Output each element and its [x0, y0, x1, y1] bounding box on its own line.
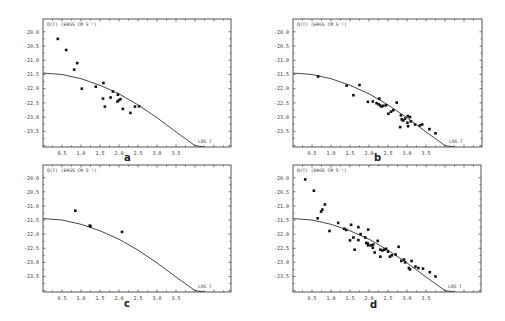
y-tick-label: -22.5	[24, 245, 39, 251]
x-tick-label: 2.5	[383, 295, 392, 301]
data-point	[102, 82, 105, 85]
data-point	[328, 230, 331, 233]
data-point	[372, 246, 375, 249]
data-point	[385, 248, 388, 251]
panel-b-label: b	[374, 152, 381, 163]
y-tick-label: -21.0	[274, 57, 289, 63]
data-point	[89, 225, 92, 228]
data-point	[379, 255, 382, 258]
data-point	[353, 248, 356, 251]
plot-frame	[43, 165, 231, 292]
y-axis-title: Q(T) (ERGS CM S⁻¹)	[297, 22, 347, 27]
x-tick-label: 1.0	[326, 295, 335, 301]
y-tick-label: -23.0	[24, 114, 39, 120]
data-point	[65, 49, 68, 52]
data-point	[434, 132, 437, 135]
x-axis-title: LOG T	[198, 139, 212, 144]
model-curve	[293, 219, 455, 292]
data-point	[345, 229, 348, 232]
data-point	[349, 239, 352, 242]
plot-frame	[43, 19, 231, 147]
y-tick-label: -20.0	[274, 29, 289, 35]
x-tick-label: 3.5	[171, 295, 180, 301]
y-tick-label: -20.5	[24, 189, 39, 195]
data-point	[391, 254, 394, 257]
y-tick-label: -21.0	[274, 203, 289, 209]
data-point	[367, 101, 370, 104]
data-point	[417, 267, 420, 270]
data-point	[395, 101, 398, 104]
x-tick-label: 3.0	[402, 150, 411, 156]
panel-a-label: a	[124, 152, 131, 163]
y-tick-label: -23.5	[274, 273, 289, 279]
data-point	[377, 103, 380, 106]
x-axis-title: LOG T	[449, 139, 463, 144]
x-tick-label: 0.5	[57, 295, 66, 301]
panel-c: 0.51.01.52.02.53.03.5-20.0-20.5-21.0-21.…	[24, 165, 231, 301]
data-point	[373, 251, 376, 254]
y-tick-label: -22.0	[24, 231, 39, 237]
x-tick-label: 2.5	[133, 295, 142, 301]
y-tick-label: -22.5	[274, 100, 289, 106]
y-tick-label: -20.0	[24, 29, 39, 35]
y-axis-title: Q(T) (ERGS CM S⁻¹)	[47, 168, 97, 173]
y-tick-label: -23.0	[24, 259, 39, 265]
data-point	[122, 108, 125, 111]
data-point	[352, 236, 355, 239]
data-point	[392, 109, 395, 112]
data-point	[350, 224, 353, 227]
data-point	[387, 250, 390, 253]
data-point	[359, 233, 362, 236]
data-point	[400, 260, 403, 263]
x-tick-label: 2.5	[383, 150, 392, 156]
data-point	[378, 97, 381, 100]
data-point	[102, 97, 105, 100]
data-point	[414, 123, 417, 126]
x-tick-label: 1.0	[326, 150, 335, 156]
data-point	[399, 126, 402, 129]
y-tick-label: -21.5	[274, 217, 289, 223]
x-tick-label: 0.5	[57, 150, 66, 156]
x-tick-label: 1.0	[76, 150, 85, 156]
x-tick-label: 2.0	[114, 150, 123, 156]
data-point	[316, 217, 319, 220]
y-tick-label: -23.5	[274, 128, 289, 134]
data-point	[406, 122, 409, 125]
data-point	[367, 244, 370, 247]
data-point	[357, 226, 360, 229]
data-point	[403, 258, 406, 261]
y-tick-label: -21.5	[274, 71, 289, 77]
x-tick-label: 0.5	[307, 295, 316, 301]
model-curve	[293, 73, 455, 147]
y-tick-label: -22.0	[274, 231, 289, 237]
data-point	[434, 275, 437, 278]
data-point	[409, 268, 412, 271]
data-point	[429, 271, 432, 274]
x-tick-label: 1.5	[95, 150, 104, 156]
data-point	[387, 112, 390, 115]
panel-d: 0.51.01.52.02.53.03.5-20.0-20.5-21.0-21.…	[274, 165, 481, 301]
data-point	[109, 96, 112, 99]
data-point	[57, 38, 60, 41]
data-point	[364, 236, 367, 239]
data-point	[81, 87, 84, 90]
data-point	[117, 93, 120, 96]
data-point	[95, 85, 98, 88]
data-point	[74, 209, 77, 212]
y-tick-label: -21.5	[24, 71, 39, 77]
data-point	[370, 244, 373, 247]
data-point	[372, 243, 375, 246]
data-point	[317, 75, 320, 78]
data-point	[421, 123, 424, 126]
data-point	[313, 189, 316, 192]
data-point	[138, 105, 141, 108]
y-tick-label: -20.5	[274, 189, 289, 195]
data-point	[404, 261, 407, 264]
panel-a: 0.51.01.52.02.53.03.5-20.0-20.5-21.0-21.…	[24, 19, 231, 156]
data-point	[112, 90, 115, 93]
data-point	[394, 253, 397, 256]
data-point	[104, 105, 107, 108]
data-point	[410, 260, 413, 263]
data-point	[409, 116, 412, 119]
y-tick-label: -20.0	[24, 175, 39, 181]
